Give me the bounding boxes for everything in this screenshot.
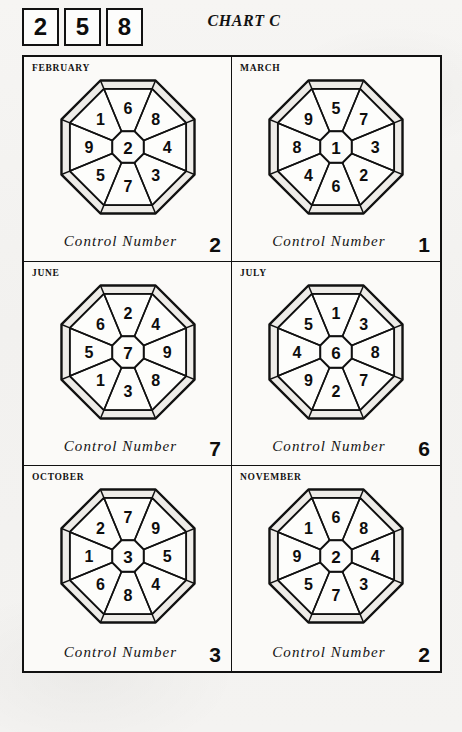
wedge-number: 2: [332, 383, 341, 400]
control-number-row: Control Number1: [232, 229, 440, 255]
wedge-number: 8: [371, 344, 380, 361]
diagram-container: 573264891: [232, 71, 440, 223]
wedge-number: 9: [304, 111, 313, 128]
control-number-value: 2: [418, 643, 430, 667]
wedge-number: 1: [95, 371, 104, 388]
control-number-row: Control Number2: [232, 639, 440, 665]
wedge-number: 8: [359, 521, 368, 538]
wedge-number: 1: [332, 305, 341, 322]
wedge-number: 4: [151, 576, 160, 593]
diagram-container: 684375912: [232, 480, 440, 632]
control-number-label: Control Number: [24, 233, 231, 250]
octagon-wheel: 573264891: [261, 72, 411, 222]
diagram-container: 795486123: [24, 480, 231, 632]
wedge-number: 7: [359, 111, 368, 128]
wedge-number: 8: [151, 111, 160, 128]
control-number-value: 7: [209, 437, 221, 461]
wedge-number: 2: [123, 305, 132, 322]
center-number: 1: [331, 139, 340, 158]
wedge-number: 7: [359, 371, 368, 388]
wedge-number: 8: [292, 139, 301, 156]
month-cell-march: MARCH573264891Control Number1: [232, 57, 440, 262]
wedge-number: 3: [371, 139, 380, 156]
center-number: 2: [123, 139, 132, 158]
octagon-wheel: 795486123: [53, 481, 203, 631]
wedge-number: 4: [371, 548, 380, 565]
wedge-number: 5: [304, 316, 313, 333]
wedge-number: 4: [304, 167, 313, 184]
wedge-number: 9: [84, 139, 93, 156]
wedge-number: 9: [151, 521, 160, 538]
control-number-row: Control Number7: [24, 433, 231, 459]
wedge-number: 2: [95, 521, 104, 538]
control-number-label: Control Number: [24, 644, 231, 661]
wedge-number: 2: [359, 167, 368, 184]
center-number: 6: [331, 343, 340, 362]
wedge-number: 7: [332, 587, 341, 604]
wedge-number: 6: [123, 100, 132, 117]
wedge-number: 4: [162, 139, 171, 156]
control-number-label: Control Number: [24, 438, 231, 455]
octagon-wheel: 684375912: [261, 481, 411, 631]
wedge-number: 3: [151, 167, 160, 184]
control-number-row: Control Number6: [232, 433, 440, 459]
control-number-label: Control Number: [232, 644, 440, 661]
diagram-container: 138729456: [232, 276, 440, 428]
control-number-row: Control Number2: [24, 229, 231, 255]
wedge-number: 5: [84, 344, 93, 361]
wedge-number: 8: [123, 587, 132, 604]
control-number-label: Control Number: [232, 438, 440, 455]
chart-page: 2 5 8 CHART C FEBRUARY684375912Control N…: [0, 0, 462, 732]
wedge-number: 8: [151, 371, 160, 388]
wedge-number: 1: [84, 548, 93, 565]
wedge-number: 9: [162, 344, 171, 361]
wedge-number: 7: [123, 178, 132, 195]
page-header: 2 5 8 CHART C: [0, 0, 462, 50]
wedge-number: 4: [292, 344, 301, 361]
diagram-container: 249831567: [24, 276, 231, 428]
control-number-value: 2: [209, 233, 221, 257]
center-number: 2: [331, 548, 340, 567]
month-cell-november: NOVEMBER684375912Control Number2: [232, 466, 440, 671]
chart-grid: FEBRUARY684375912Control Number2MARCH573…: [22, 55, 442, 673]
wedge-number: 4: [151, 316, 160, 333]
center-number: 7: [123, 343, 132, 362]
month-cell-july: JULY138729456Control Number6: [232, 262, 440, 467]
wedge-number: 1: [304, 521, 313, 538]
control-number-row: Control Number3: [24, 639, 231, 665]
octagon-wheel: 249831567: [53, 277, 203, 427]
wedge-number: 6: [95, 316, 104, 333]
month-cell-october: OCTOBER795486123Control Number3: [24, 466, 232, 671]
page-title: CHART C: [0, 12, 462, 30]
diagram-container: 684375912: [24, 71, 231, 223]
octagon-wheel: 684375912: [53, 72, 203, 222]
wedge-number: 6: [332, 509, 341, 526]
wedge-number: 5: [95, 167, 104, 184]
control-number-value: 1: [418, 233, 430, 257]
wedge-number: 7: [123, 509, 132, 526]
wedge-number: 1: [95, 111, 104, 128]
month-cell-february: FEBRUARY684375912Control Number2: [24, 57, 232, 262]
wedge-number: 5: [304, 576, 313, 593]
wedge-number: 6: [95, 576, 104, 593]
center-number: 3: [123, 548, 132, 567]
wedge-number: 9: [304, 371, 313, 388]
month-cell-june: JUNE249831567Control Number7: [24, 262, 232, 467]
wedge-number: 5: [332, 100, 341, 117]
wedge-number: 3: [359, 576, 368, 593]
control-number-value: 3: [209, 643, 221, 667]
octagon-wheel: 138729456: [261, 277, 411, 427]
wedge-number: 6: [332, 178, 341, 195]
wedge-number: 3: [359, 316, 368, 333]
control-number-value: 6: [418, 437, 430, 461]
wedge-number: 3: [123, 383, 132, 400]
wedge-number: 5: [162, 548, 171, 565]
control-number-label: Control Number: [232, 233, 440, 250]
wedge-number: 9: [292, 548, 301, 565]
